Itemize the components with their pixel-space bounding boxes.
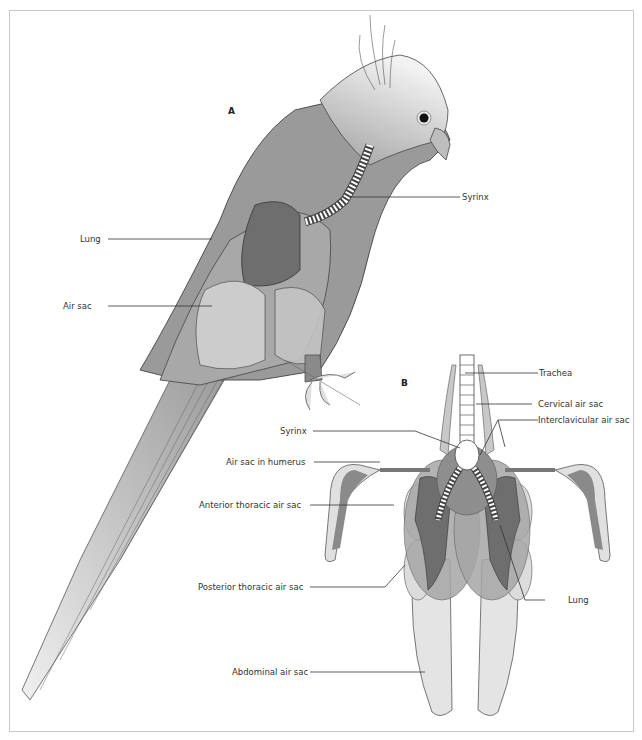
label-interclavicular-air-sac: Interclavicular air sac xyxy=(538,415,629,425)
label-trachea: Trachea xyxy=(539,368,572,378)
eye xyxy=(420,114,429,123)
label-abdominal-air-sac: Abdominal air sac xyxy=(232,667,308,677)
label-cervical-air-sac: Cervical air sac xyxy=(538,399,603,409)
panel-b-label: B xyxy=(401,378,408,388)
label-air-sac-in-humerus: Air sac in humerus xyxy=(226,457,305,467)
label-lung-a: Lung xyxy=(80,234,101,244)
air-sac-a xyxy=(196,281,265,369)
cockatiel-illustration xyxy=(22,15,450,700)
panel-a-label: A xyxy=(228,106,235,116)
label-posterior-thoracic-air-sac: Posterior thoracic air sac xyxy=(198,582,303,592)
label-syrinx-a: Syrinx xyxy=(462,192,489,202)
label-air-sac-a: Air sac xyxy=(63,301,92,311)
label-syrinx-b: Syrinx xyxy=(280,426,307,436)
syrinx-b xyxy=(455,440,479,470)
label-lung-b: Lung xyxy=(568,595,589,605)
airsac-system-illustration xyxy=(325,355,610,716)
label-anterior-thoracic-air-sac: Anterior thoracic air sac xyxy=(199,500,301,510)
cervical-air-sac-right xyxy=(478,365,494,455)
